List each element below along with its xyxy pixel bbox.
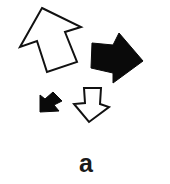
figure-canvas: a <box>0 0 170 184</box>
small-filled-arrow-icon <box>40 92 62 112</box>
large-hollow-arrow-icon <box>20 8 81 72</box>
small-hollow-arrow-icon <box>74 88 109 122</box>
large-filled-arrow-icon <box>91 33 143 83</box>
panel-label: a <box>0 148 170 178</box>
